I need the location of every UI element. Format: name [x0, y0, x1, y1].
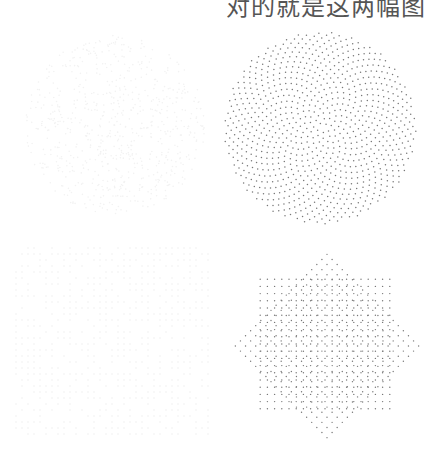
faint-grid-figure-bottom-left: [12, 240, 212, 445]
octagram-lattice-figure: [225, 244, 425, 444]
faint-dot-figure-top-left: [20, 25, 210, 225]
sunflower-spiral-figure: [222, 30, 418, 226]
caption-text: 对的就是这两幅图: [226, 0, 426, 22]
